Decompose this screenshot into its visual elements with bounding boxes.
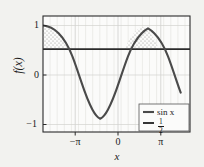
y-tick-label-neg1: −1: [15, 118, 37, 129]
x-axis-label: x: [43, 150, 191, 162]
x-tick-label-pi: π: [149, 136, 173, 147]
legend-fraction-denominator: 2: [158, 127, 164, 135]
y-tick-label-0: 0: [17, 69, 39, 80]
legend-label-half: 1 2: [158, 118, 164, 134]
y-tick-label-1: 1: [17, 19, 39, 30]
x-tick-label-zero: 0: [106, 136, 130, 147]
y-axis-label: f(x): [11, 42, 26, 90]
x-tick-label-neg-pi: −π: [63, 136, 87, 147]
legend-label-sin: sin x: [157, 107, 174, 117]
